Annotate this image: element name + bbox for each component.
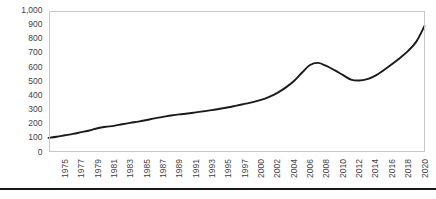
y-axis-tick-label: 300 [0,105,43,114]
x-axis-tick-label: 2018 [404,159,413,178]
x-axis-tick-label: 1975 [61,159,70,178]
x-axis-tick-label: 2002 [273,159,282,178]
line-chart: 01002003004005006007008009001,000 197519… [0,0,436,199]
y-axis-tick-label: 1,000 [0,6,43,15]
x-axis-tick-label: 2014 [371,159,380,178]
x-axis-tick-label: 1987 [159,159,168,178]
x-axis-tick-label: 1981 [110,159,119,178]
footer-rule [0,188,436,190]
x-axis-tick-label: 2016 [388,159,397,178]
x-axis-tick-label: 1977 [77,159,86,178]
x-axis-tick-label: 1997 [241,159,250,178]
x-axis-tick-label: 1993 [208,159,217,178]
x-axis-tick-label: 2008 [322,159,331,178]
y-axis-tick-label: 600 [0,63,43,72]
x-axis-tick-label: 1985 [143,159,152,178]
x-axis-tick-label: 2010 [339,159,348,178]
x-axis-tick-label: 2020 [421,159,430,178]
x-axis-tick-label: 1979 [94,159,103,178]
y-axis-tick-label: 400 [0,91,43,100]
plot-area-border [49,11,425,153]
x-axis-tick-label: 1991 [192,159,201,178]
x-axis-tick-label: 1995 [224,159,233,178]
y-axis-tick-label: 200 [0,119,43,128]
y-axis-tick-label: 0 [0,148,43,157]
y-axis-tick-label: 700 [0,48,43,57]
x-axis-tick-label: 2006 [306,159,315,178]
x-axis-tick-label: 2000 [257,159,266,178]
y-axis-tick-label: 100 [0,133,43,142]
y-axis-tick-label: 800 [0,34,43,43]
x-axis-tick-label: 1983 [126,159,135,178]
x-axis-tick-label: 1989 [175,159,184,178]
y-axis-tick-label: 900 [0,20,43,29]
x-axis-tick-label: 2012 [355,159,364,178]
x-axis-tick-label: 2004 [290,159,299,178]
y-axis-tick-label: 500 [0,77,43,86]
